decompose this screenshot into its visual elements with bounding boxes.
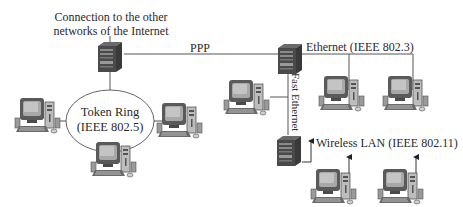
- internet-connection-label: Connection to the other networks of the …: [26, 10, 196, 38]
- computer-icon: [156, 101, 206, 141]
- fast-ethernet-label: Fast Ethernet: [290, 73, 302, 131]
- token-ring-label: Token Ring (IEEE 802.5): [66, 105, 154, 135]
- computer-icon: [310, 167, 360, 207]
- wireless-lan-label: Wireless LAN (IEEE 802.11): [316, 136, 458, 150]
- internet-connection-line1: Connection to the other: [26, 10, 196, 24]
- token-ring-line2: (IEEE 802.5): [66, 120, 154, 135]
- computer-icon: [14, 96, 64, 136]
- token-ring-line1: Token Ring: [66, 105, 154, 120]
- computer-icon: [90, 140, 140, 180]
- ethernet-label: Ethernet (IEEE 802.3): [306, 40, 414, 54]
- internet-connection-line2: networks of the Internet: [26, 24, 196, 38]
- computer-icon: [223, 78, 273, 118]
- server-icon: [275, 134, 303, 166]
- computer-icon: [377, 167, 427, 207]
- ppp-label: PPP: [190, 41, 210, 55]
- network-diagram: Connection to the other networks of the …: [0, 0, 463, 207]
- computer-icon: [382, 74, 432, 114]
- server-icon: [96, 40, 124, 72]
- computer-icon: [318, 74, 368, 114]
- server-icon: [276, 42, 304, 74]
